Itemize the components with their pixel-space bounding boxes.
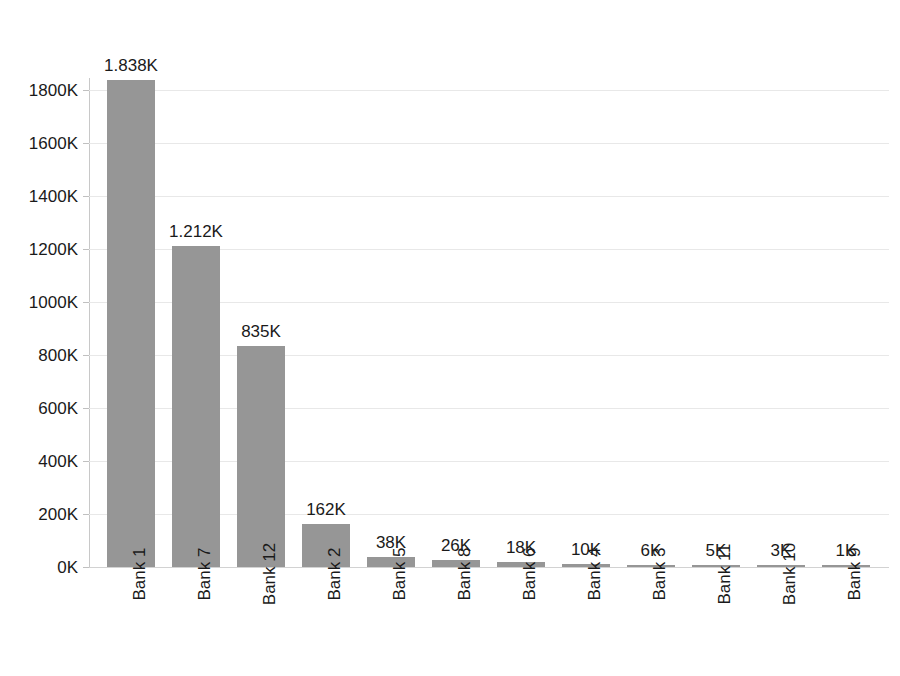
x-axis-category-label: Bank 11 bbox=[716, 543, 733, 604]
y-axis-tick-label: 1800K bbox=[4, 82, 78, 99]
x-axis-label-slot: Bank 3 bbox=[618, 570, 683, 676]
bar-value-label: 835K bbox=[220, 323, 302, 340]
bar[interactable] bbox=[172, 246, 220, 567]
x-axis-label-slot: Bank 2 bbox=[293, 570, 358, 676]
bar-slot: 10K bbox=[553, 90, 618, 567]
x-axis-category-label: Bank 6 bbox=[521, 548, 538, 601]
y-axis-tick-mark bbox=[83, 90, 89, 91]
y-axis-tick-mark bbox=[83, 143, 89, 144]
bar-slot: 835K bbox=[228, 90, 293, 567]
x-axis-label-slot: Bank 4 bbox=[553, 570, 618, 676]
bar[interactable] bbox=[107, 80, 155, 567]
y-axis-tick-mark bbox=[83, 408, 89, 409]
x-axis-category-label: Bank 12 bbox=[261, 543, 278, 605]
y-axis-tick-mark bbox=[83, 567, 89, 568]
y-axis-tick-labels: 0K200K400K600K800K1000K1200K1400K1600K18… bbox=[0, 0, 78, 676]
bar-slot: 18K bbox=[488, 90, 553, 567]
x-axis-category-label: Bank 7 bbox=[196, 548, 213, 601]
bar[interactable] bbox=[237, 346, 285, 567]
y-axis-tick-mark bbox=[83, 355, 89, 356]
y-axis-tick-label: 0K bbox=[4, 559, 78, 576]
bar-value-label: 1.838K bbox=[90, 57, 172, 74]
y-axis-tick-label: 400K bbox=[4, 453, 78, 470]
x-axis-category-label: Bank 5 bbox=[391, 548, 408, 601]
y-axis-tick-mark bbox=[83, 461, 89, 462]
bar-slot: 162K bbox=[293, 90, 358, 567]
bar-slot: 5K bbox=[683, 90, 748, 567]
x-axis-category-label: Bank 9 bbox=[846, 548, 863, 601]
bar-slot: 3K bbox=[748, 90, 813, 567]
y-axis-tick-label: 1000K bbox=[4, 294, 78, 311]
y-axis-tick-label: 1600K bbox=[4, 135, 78, 152]
y-axis-tick-mark bbox=[83, 249, 89, 250]
x-axis-category-label: Bank 2 bbox=[326, 548, 343, 601]
y-axis-tick-label: 600K bbox=[4, 400, 78, 417]
x-axis-label-slot: Bank 1 bbox=[98, 570, 163, 676]
x-axis-category-labels: Bank 1Bank 7Bank 12Bank 2Bank 5Bank 8Ban… bbox=[89, 570, 889, 676]
x-axis-label-slot: Bank 7 bbox=[163, 570, 228, 676]
bar-slot: 1K bbox=[813, 90, 878, 567]
y-axis-tick-mark bbox=[83, 196, 89, 197]
x-axis-category-label: Bank 1 bbox=[131, 548, 148, 601]
bar-slot: 38K bbox=[358, 90, 423, 567]
y-axis-tick-label: 800K bbox=[4, 347, 78, 364]
plot-area: 1.838K1.212K835K162K38K26K18K10K6K5K3K1K bbox=[89, 90, 889, 567]
bar-chart: 0K200K400K600K800K1000K1200K1400K1600K18… bbox=[0, 0, 900, 676]
x-axis-label-slot: Bank 10 bbox=[748, 570, 813, 676]
y-axis-tick-label: 1200K bbox=[4, 241, 78, 258]
x-axis-category-label: Bank 10 bbox=[781, 543, 798, 605]
x-axis-label-slot: Bank 9 bbox=[813, 570, 878, 676]
x-axis-category-label: Bank 4 bbox=[586, 548, 603, 601]
y-axis-tick-label: 1400K bbox=[4, 188, 78, 205]
bar-slot: 26K bbox=[423, 90, 488, 567]
x-axis-label-slot: Bank 12 bbox=[228, 570, 293, 676]
x-axis-label-slot: Bank 11 bbox=[683, 570, 748, 676]
x-axis-category-label: Bank 8 bbox=[456, 548, 473, 601]
y-axis-tick-label: 200K bbox=[4, 506, 78, 523]
y-axis-tick-mark bbox=[83, 514, 89, 515]
x-axis-label-slot: Bank 6 bbox=[488, 570, 553, 676]
bar-slot: 1.212K bbox=[163, 90, 228, 567]
bar-value-label: 162K bbox=[285, 501, 367, 518]
bar-value-label: 1.212K bbox=[155, 223, 237, 240]
x-axis-label-slot: Bank 8 bbox=[423, 570, 488, 676]
x-axis-label-slot: Bank 5 bbox=[358, 570, 423, 676]
bar-slot: 1.838K bbox=[98, 90, 163, 567]
bar-slot: 6K bbox=[618, 90, 683, 567]
x-axis-category-label: Bank 3 bbox=[651, 548, 668, 601]
y-axis-tick-mark bbox=[83, 302, 89, 303]
